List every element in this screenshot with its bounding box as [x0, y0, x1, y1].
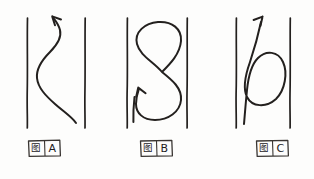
panel-a-trajectory	[37, 18, 76, 124]
label-c-letter: C	[277, 142, 285, 155]
panel-c-arrowhead-icon	[254, 17, 263, 26]
panel-a	[27, 16, 85, 128]
label-a: 图 A	[29, 140, 61, 156]
label-b-cjk: 图	[143, 142, 153, 153]
label-b-letter: B	[161, 142, 169, 155]
panel-b-trajectory	[136, 22, 181, 120]
label-c-cjk: 图	[259, 142, 269, 153]
label-b: 图 B	[141, 140, 173, 156]
panel-b-tail-stub	[133, 97, 134, 122]
label-a-cjk: 图	[31, 142, 41, 153]
figure-sheet: 图 A 图 B 图 C	[0, 0, 314, 179]
panel-b	[127, 18, 187, 128]
label-a-letter: A	[49, 142, 57, 155]
label-b-divider	[157, 141, 158, 156]
label-c: 图 C	[257, 140, 289, 156]
label-c-divider	[273, 141, 274, 156]
panel-c	[236, 17, 290, 128]
label-a-divider	[45, 141, 46, 157]
panel-c-trajectory	[244, 22, 285, 124]
